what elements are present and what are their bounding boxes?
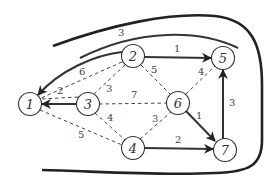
svg-text:7: 7: [221, 143, 230, 158]
weight-4-6: 3: [152, 113, 158, 124]
node-7: 7: [214, 139, 237, 162]
weight-2-1-dash: 6: [79, 66, 85, 77]
edge-3-1-dashed: [41, 97, 78, 99]
node-1: 1: [19, 93, 42, 116]
weight-2-5: 1: [174, 43, 180, 54]
edge-4-7: [144, 148, 213, 149]
node-2: 2: [122, 45, 145, 68]
node-6: 6: [167, 92, 190, 115]
weight-2-1-curve: 3: [118, 27, 124, 38]
graph-diagram: 3 1 6 2 3 5 7 4 4 5 3 1 2 3 1 2 3 4: [0, 0, 271, 187]
weight-7-5: 3: [229, 97, 235, 108]
weight-6-5: 4: [198, 66, 204, 77]
svg-text:4: 4: [128, 141, 137, 156]
svg-text:6: 6: [174, 96, 182, 111]
weight-3-4: 4: [107, 112, 113, 123]
weight-4-7: 2: [175, 134, 181, 145]
svg-text:2: 2: [128, 49, 137, 64]
svg-text:5: 5: [219, 51, 227, 66]
edge-3-6: [99, 103, 167, 104]
weight-3-1-dash: 2: [57, 85, 63, 96]
graph-svg: 3 1 6 2 3 5 7 4 4 5 3 1 2 3 1 2 3 4: [0, 0, 271, 187]
node-4: 4: [122, 137, 145, 160]
node-5: 5: [212, 47, 235, 70]
weight-2-6: 5: [151, 64, 157, 75]
svg-text:3: 3: [84, 97, 92, 112]
edge-2-5: [144, 57, 211, 58]
weight-1-4: 5: [78, 129, 84, 140]
weight-3-6: 7: [131, 89, 137, 100]
svg-text:1: 1: [26, 97, 34, 112]
weight-3-2: 3: [106, 83, 112, 94]
weight-6-7: 1: [196, 110, 202, 121]
node-3: 3: [77, 93, 100, 116]
